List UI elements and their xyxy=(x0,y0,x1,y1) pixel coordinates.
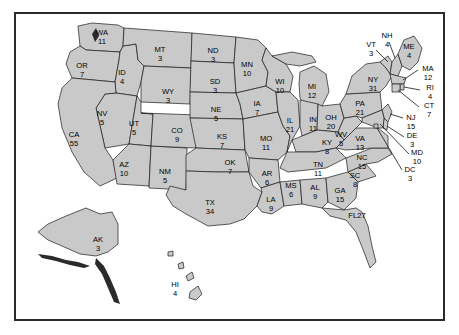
state-label-fl[interactable]: FL27 xyxy=(348,211,365,220)
state-votes-mi: 12 xyxy=(308,91,316,100)
state-votes-nd: 3 xyxy=(211,55,215,64)
state-label-ct[interactable]: CT7 xyxy=(424,101,434,119)
state-label-in[interactable]: IN11 xyxy=(309,115,317,133)
state-abbr-az: AZ xyxy=(119,160,129,169)
state-label-vt[interactable]: VT3 xyxy=(366,40,376,58)
state-shape-hi-isl3[interactable] xyxy=(178,262,184,269)
state-abbr-ak: AK xyxy=(93,235,103,244)
electoral-map-figure: WA11OR7ID4MT3WY3NV5UT5CA55AZ10NM5CO9ND3S… xyxy=(0,0,459,335)
state-label-tn[interactable]: TN11 xyxy=(313,160,323,178)
state-abbr-al: AL xyxy=(310,183,319,192)
state-shape-hi-isl4[interactable] xyxy=(168,251,173,256)
state-votes-tx: 34 xyxy=(206,207,214,216)
leader-line-ma xyxy=(403,70,418,80)
state-abbr-dc: DC xyxy=(405,165,416,174)
state-abbr-ar: AR xyxy=(262,169,273,178)
state-abbr-mi: MI xyxy=(308,82,316,91)
state-votes-al: 9 xyxy=(313,192,317,201)
leader-line-de xyxy=(387,126,404,137)
state-shape-dc[interactable] xyxy=(374,124,378,128)
state-votes-tn: 11 xyxy=(314,169,322,178)
state-votes-wv: 5 xyxy=(339,139,343,148)
state-abbr-ne: NE xyxy=(211,105,222,114)
state-votes-nm: 5 xyxy=(163,176,167,185)
state-votes-hi: 4 xyxy=(173,289,177,298)
state-label-de[interactable]: DE3 xyxy=(407,131,418,149)
state-label-md[interactable]: MD10 xyxy=(411,148,423,166)
leader-line-ri xyxy=(404,87,420,90)
state-label-mn[interactable]: MN10 xyxy=(241,60,253,78)
state-abbr-sc: SC xyxy=(350,171,361,180)
state-abbr-or: OR xyxy=(76,61,88,70)
state-votes-nh: 4 xyxy=(385,40,389,49)
us-map-svg[interactable]: WA11OR7ID4MT3WY3NV5UT5CA55AZ10NM5CO9ND3S… xyxy=(0,0,459,335)
state-label-tx[interactable]: TX34 xyxy=(205,198,215,216)
state-abbr-nj: NJ xyxy=(406,113,415,122)
state-abbr-wi: WI xyxy=(275,77,284,86)
state-votes-ak: 3 xyxy=(96,244,100,253)
state-abbr-ok: OK xyxy=(225,158,236,167)
state-votes-mn: 10 xyxy=(243,69,251,78)
state-label-hi[interactable]: HI4 xyxy=(171,280,179,298)
state-abbr-ut: UT xyxy=(129,119,139,128)
state-votes-in: 11 xyxy=(309,124,317,133)
state-label-az[interactable]: AZ10 xyxy=(119,160,129,178)
state-votes-ca: 55 xyxy=(70,139,78,148)
state-shape-hi-isl2[interactable] xyxy=(186,272,194,281)
state-votes-ms: 6 xyxy=(289,190,293,199)
state-votes-sd: 3 xyxy=(213,86,217,95)
state-shape-ri[interactable] xyxy=(400,84,404,90)
state-label-mi[interactable]: MI12 xyxy=(308,82,316,100)
state-votes-ut: 5 xyxy=(132,128,136,137)
state-votes-ga: 15 xyxy=(336,195,344,204)
state-abbr-ny: NY xyxy=(368,75,379,84)
state-abbr-mo: MO xyxy=(260,134,272,143)
state-votes-vt: 3 xyxy=(369,49,373,58)
state-label-va[interactable]: VA13 xyxy=(355,134,366,152)
state-shape-or[interactable] xyxy=(66,46,120,82)
state-abbr-va: VA xyxy=(355,134,366,143)
state-votes-nv: 5 xyxy=(100,118,104,127)
state-votes-ia: 7 xyxy=(255,108,259,117)
state-abbr-ga: GA xyxy=(335,186,347,195)
state-abbr-co: CO xyxy=(171,126,182,135)
state-label-wi[interactable]: WI10 xyxy=(275,77,284,95)
state-votes-mo: 11 xyxy=(262,143,270,152)
state-shape-ak[interactable] xyxy=(38,208,118,256)
state-abbr-ky: KY xyxy=(322,138,332,147)
state-abbr-tx: TX xyxy=(205,198,215,207)
state-abbr-hi: HI xyxy=(171,280,179,289)
state-votes-or: 7 xyxy=(80,70,84,79)
state-label-dc[interactable]: DC3 xyxy=(405,165,416,183)
state-abbr-pa: PA xyxy=(355,99,366,108)
state-label-ny[interactable]: NY31 xyxy=(368,75,379,93)
state-abbr-ma: MA xyxy=(422,64,434,73)
state-label-il[interactable]: IL21 xyxy=(286,116,294,134)
state-shape-hi[interactable] xyxy=(189,286,202,300)
state-label-pa[interactable]: PA21 xyxy=(355,99,366,117)
state-label-ma[interactable]: MA12 xyxy=(422,64,434,82)
state-abbr-nd: ND xyxy=(208,46,219,55)
state-votes-ri: 4 xyxy=(428,92,432,101)
state-abbr-me: ME xyxy=(403,42,414,51)
state-label-nj[interactable]: NJ15 xyxy=(406,113,415,131)
state-votes-nj: 15 xyxy=(407,122,415,131)
state-votes-ar: 6 xyxy=(265,178,269,187)
state-shape-ok[interactable] xyxy=(186,148,249,172)
state-abbr-wv: WV xyxy=(335,130,348,139)
state-abbr-de: DE xyxy=(407,131,418,140)
state-votes-me: 4 xyxy=(407,51,411,60)
state-label-ri[interactable]: RI4 xyxy=(426,83,434,101)
state-abbr-sd: SD xyxy=(210,77,221,86)
state-abbr-nm: NM xyxy=(159,167,171,176)
state-votes-nc: 15 xyxy=(358,162,366,171)
leader-line-nj xyxy=(390,114,403,118)
state-abbr-id: ID xyxy=(118,68,126,77)
state-votes-id: 4 xyxy=(120,77,124,86)
state-abbr-ms: MS xyxy=(285,181,296,190)
state-abbr-tn: TN xyxy=(313,160,323,169)
state-votes-pa: 21 xyxy=(356,108,364,117)
state-label-oh[interactable]: OH20 xyxy=(325,113,336,131)
state-abbr-wa: WA xyxy=(96,28,109,37)
state-abbr-in: IN xyxy=(309,115,317,124)
